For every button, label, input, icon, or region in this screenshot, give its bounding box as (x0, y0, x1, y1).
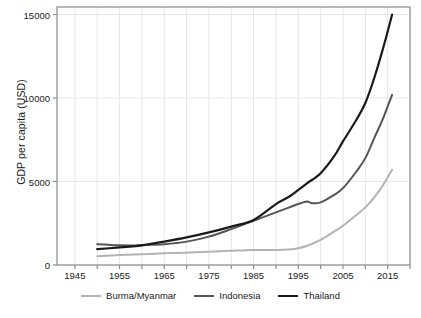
y-axis-tick-label: 10000 (10, 93, 50, 104)
legend-line-swatch-icon (278, 295, 298, 297)
y-axis-tick-label: 15000 (10, 9, 50, 20)
x-axis-tick-label: 1975 (189, 270, 229, 281)
x-axis-tick-label: 1955 (100, 270, 140, 281)
x-axis-tick-label: 2015 (368, 270, 408, 281)
x-axis-tick-label: 1995 (278, 270, 318, 281)
legend-label: Thailand (303, 290, 339, 301)
legend-item[interactable]: Burma/Myanmar (81, 290, 176, 301)
legend-item[interactable]: Indonesia (194, 290, 260, 301)
y-axis-tick-label: 0 (10, 260, 50, 271)
legend-line-swatch-icon (194, 295, 214, 297)
x-axis-tick-label: 2005 (323, 270, 363, 281)
x-axis-tick-labels: 19451955196519751985199520052015 (0, 270, 421, 286)
x-axis-tick-label: 1945 (55, 270, 95, 281)
x-axis-tick-label: 1985 (234, 270, 274, 281)
y-axis-tick-label: 5000 (10, 176, 50, 187)
legend-label: Burma/Myanmar (106, 290, 176, 301)
gdp-per-capita-line-chart: GDP per capita (USD) 050001000015000 194… (0, 0, 421, 318)
chart-legend: Burma/MyanmarIndonesiaThailand (0, 290, 421, 301)
legend-line-swatch-icon (81, 295, 101, 297)
legend-item[interactable]: Thailand (278, 290, 339, 301)
legend-label: Indonesia (219, 290, 260, 301)
x-axis-tick-label: 1965 (144, 270, 184, 281)
